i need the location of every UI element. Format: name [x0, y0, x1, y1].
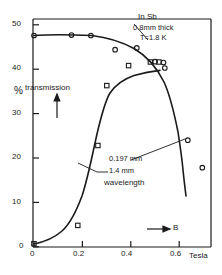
axis-lines: [33, 19, 211, 247]
y-tick-label-20: 20: [12, 153, 21, 161]
data-point: [113, 47, 118, 52]
data-point: [186, 138, 191, 143]
thickness-label: 0.8mm thick: [133, 24, 173, 32]
chart-figure: 50 40 30 20 10 0 % 0 0.2 0.4 0.6 Tesla B…: [0, 0, 222, 275]
transmission-arrow-icon: [54, 94, 60, 118]
y-tick-label-40: 40: [12, 64, 21, 72]
y-tick-label-0: 0: [19, 242, 23, 250]
chart-canvas: [0, 0, 222, 275]
x-tick-label-0: 0: [30, 250, 34, 258]
y-tick-label-50: 50: [12, 20, 21, 28]
y-tick-label-10: 10: [12, 198, 21, 206]
wavelength-b-label: 1.4 mm: [109, 167, 134, 175]
data-point: [96, 143, 100, 147]
y-axis-label: %: [14, 86, 23, 96]
sample-label: In Sb: [138, 13, 157, 21]
transmission-label: transmission: [25, 84, 70, 92]
data-point: [161, 60, 166, 65]
temperature-label: T=1.8 K: [140, 34, 166, 42]
b-field-label: B: [173, 224, 178, 232]
data-point: [126, 63, 130, 67]
x-ticks: [34, 241, 179, 247]
data-point: [105, 83, 109, 87]
b-field-arrow-icon: [147, 226, 170, 232]
y-ticks: [33, 25, 39, 247]
y-tick-label-30: 30: [12, 109, 21, 117]
wavelength-a-label: 0.197 mm: [109, 155, 142, 163]
leader-14mm: [78, 163, 97, 172]
x-tick-label-0.4: 0.4: [121, 250, 132, 258]
data-point: [76, 223, 80, 227]
x-tick-label-0.6: 0.6: [170, 250, 181, 258]
data-point: [163, 66, 168, 71]
x-tick-label-0.2: 0.2: [73, 250, 84, 258]
data-point: [200, 165, 205, 170]
wavelength-caption: wavelength: [104, 179, 144, 187]
x-axis-label: Tesla: [189, 252, 208, 260]
